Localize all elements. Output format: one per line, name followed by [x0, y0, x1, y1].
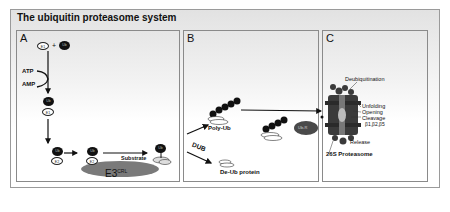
cleavage-sites-label: β1,β2,β5 — [365, 121, 385, 127]
poly-ub-label: Poly-Ub — [208, 125, 231, 131]
e2-on-e3: E2 — [86, 157, 98, 165]
ub-e1-e1: E1 — [42, 108, 54, 116]
proteasome-label: 26S Proteasome — [326, 151, 373, 157]
e3-label: E3CRL — [105, 168, 127, 179]
panel-a: A E1 + Ub ATP AMP Ub E1 Ub E2 Ub E2 Ub S… — [16, 30, 180, 182]
deubiquitination-label: Deubiquitination — [345, 76, 384, 82]
panel-b: B Poly-Ub DUB De-Ub protein Ub-R — [183, 30, 319, 182]
e1-node: E1 — [37, 42, 49, 50]
atp-label: ATP — [22, 68, 34, 74]
ub-node: Ub — [59, 41, 70, 50]
de-ub-protein-label: De-Ub protein — [220, 169, 260, 175]
panel-c: C Deubiquitination Unfolding Opening Cle… — [322, 30, 428, 182]
substrate-label: Substrate — [121, 155, 146, 161]
ub-substrate-ub: Ub — [155, 144, 166, 153]
amp-label: AMP — [22, 81, 35, 87]
e2-node: E2 — [51, 157, 63, 165]
ub-e1-ub: Ub — [43, 97, 54, 106]
ub-e2-e3-ub: Ub — [87, 147, 98, 156]
ub-e2-ub: Ub — [52, 147, 63, 156]
panel-a-arrows — [17, 31, 181, 183]
plus-sign: + — [52, 42, 56, 49]
panel-b-arrows — [184, 31, 320, 183]
ub-r-label: Ub-R — [298, 125, 307, 130]
figure-title: The ubiquitin proteasome system — [17, 12, 176, 23]
release-label: Release — [350, 139, 370, 145]
